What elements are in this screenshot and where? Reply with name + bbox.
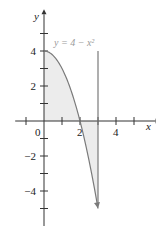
y-tick-label: −4 (24, 185, 36, 197)
y-axis-label: y (33, 10, 39, 22)
y-tick-label: −2 (24, 150, 36, 162)
y-tick-label: 4 (31, 45, 37, 57)
chart: 02442−2−4 y x y = 4 − x² (0, 0, 156, 230)
y-axis-arrow (42, 9, 47, 14)
curve-arrow (94, 202, 100, 208)
x-tick-label: 0 (35, 126, 41, 138)
x-tick-label: 4 (113, 126, 119, 138)
shaded-regions (44, 51, 98, 209)
shaded-region-0 (44, 51, 80, 121)
equation-label: y = 4 − x² (53, 37, 95, 48)
x-axis-label: x (145, 120, 151, 132)
y-tick-label: 2 (31, 80, 37, 92)
